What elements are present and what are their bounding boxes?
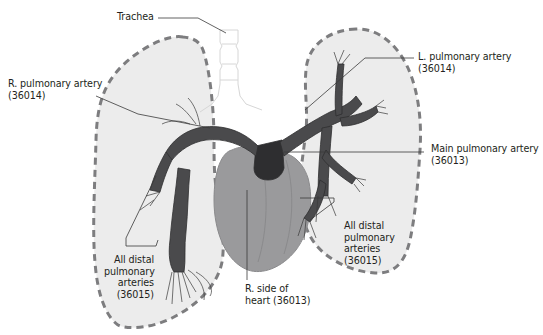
pulmonary-artery-diagram: Trachea R. pulmonary artery (36014) L. p… [0,0,543,335]
leader-trachea [158,18,226,33]
label-l-pulmonary-artery: L. pulmonary artery (36014) [418,51,511,74]
label-distal-arteries-right: All distal pulmonary arteries (36015) [344,220,395,266]
main-pulmonary-artery [254,140,284,180]
label-trachea: Trachea [117,11,154,23]
label-main-pulmonary-artery: Main pulmonary artery (36013) [431,143,539,166]
label-distal-arteries-left: All distal pulmonary arteries (36015) [104,254,154,300]
label-r-side-of-heart: R. side of heart (36013) [245,283,310,306]
label-r-pulmonary-artery: R. pulmonary artery (36014) [8,78,102,101]
